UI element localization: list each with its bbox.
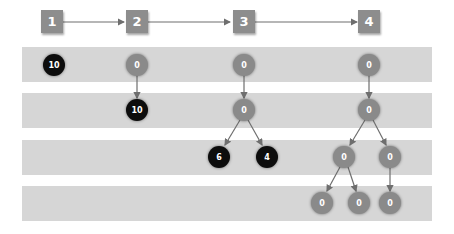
tree-node: 0 <box>333 146 355 168</box>
tree-node: 10 <box>43 54 65 76</box>
tree-node: 0 <box>358 99 380 121</box>
tree-node: 0 <box>358 54 380 76</box>
tree-node: 10 <box>126 99 148 121</box>
step-box-1: 1 <box>41 10 63 33</box>
tree-node: 0 <box>233 54 255 76</box>
step-box-4: 4 <box>358 10 380 33</box>
tree-node: 0 <box>233 99 255 121</box>
step-box-3: 3 <box>233 10 255 33</box>
tree-node: 0 <box>311 192 333 214</box>
tree-node: 0 <box>379 192 401 214</box>
tree-node: 0 <box>379 146 401 168</box>
tree-node: 6 <box>208 146 230 168</box>
step-box-2: 2 <box>126 10 148 33</box>
tree-node: 0 <box>348 192 370 214</box>
tree-node: 4 <box>256 146 278 168</box>
tree-node: 0 <box>126 54 148 76</box>
